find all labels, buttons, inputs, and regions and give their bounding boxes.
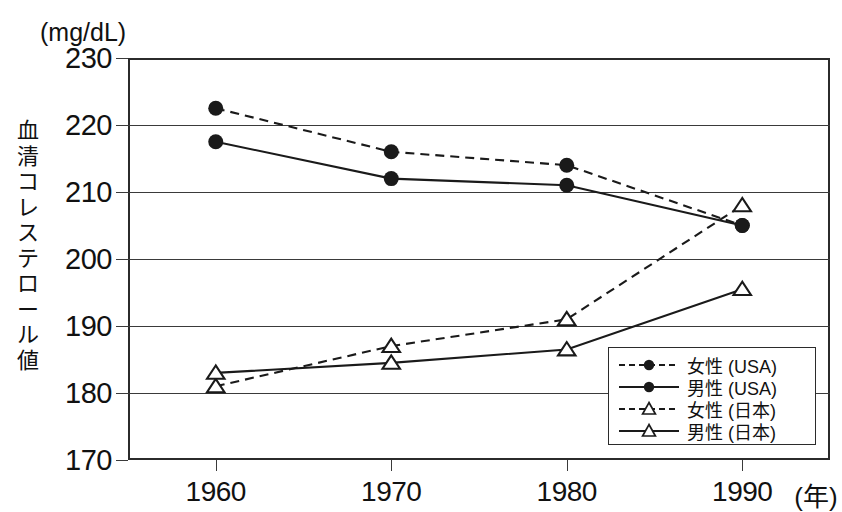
data-point-marker (558, 342, 575, 355)
legend-marker (644, 382, 654, 392)
legend-marker (644, 360, 654, 370)
x-axis-tick (742, 460, 743, 471)
y-axis-tick (116, 192, 128, 193)
y-axis-title-char: 血 (12, 118, 44, 144)
y-axis-tick-label: 200 (65, 243, 112, 276)
y-axis-tick-label: 190 (65, 310, 112, 343)
data-point-marker (558, 312, 575, 325)
y-axis-tick (116, 259, 128, 260)
data-point-marker (384, 144, 399, 159)
x-axis-tick-label: 1970 (361, 476, 421, 508)
y-axis-title-char: テ (12, 246, 44, 272)
series-line (216, 142, 743, 226)
y-axis-tick-label: 220 (65, 109, 112, 142)
data-point-marker (208, 101, 223, 116)
y-axis-tick-label: 170 (65, 444, 112, 477)
y-axis-tick (116, 326, 128, 327)
legend: 女性 (USA)男性 (USA)女性 (日本)男性 (日本) (608, 347, 816, 445)
data-point-marker (559, 158, 574, 173)
series-2 (208, 134, 750, 233)
legend-item-3: 女性 (日本) (609, 398, 815, 420)
y-axis-tick (116, 393, 128, 394)
y-axis-title-char: 清 (12, 144, 44, 170)
data-point-marker (735, 218, 750, 233)
x-axis-tick (567, 460, 568, 471)
y-axis-title-char: ロ (12, 271, 44, 297)
legend-item-1: 女性 (USA) (609, 354, 815, 376)
x-axis: 1960197019801990(年) (128, 460, 830, 510)
series-1 (208, 101, 750, 233)
data-point-marker (559, 178, 574, 193)
data-point-marker (384, 171, 399, 186)
data-point-marker (734, 282, 751, 295)
x-axis-tick-label: 1980 (537, 476, 597, 508)
legend-label: 男性 (日本) (687, 418, 776, 444)
y-axis-title-char: コ (12, 169, 44, 195)
x-axis-tick (391, 460, 392, 471)
data-point-marker (208, 134, 223, 149)
x-unit-label: (年) (794, 476, 837, 512)
y-axis-tick (116, 125, 128, 126)
y-axis-title-char: レ (12, 195, 44, 221)
y-axis-title-char: ー (12, 297, 44, 323)
y-axis-title-char: ル (12, 322, 44, 348)
x-axis-tick-label: 1990 (712, 476, 772, 508)
x-axis-tick-label: 1960 (186, 476, 246, 508)
y-axis-tick-label: 230 (65, 42, 112, 75)
legend-item-2: 男性 (USA) (609, 376, 815, 398)
y-axis-tick (116, 58, 128, 59)
chart-container: (mg/dL) 血清コレステロール値 230220210200190180170… (0, 0, 842, 512)
y-axis-tick-label: 180 (65, 377, 112, 410)
y-axis-tick (116, 460, 128, 461)
y-axis-title-char: 値 (12, 348, 44, 374)
data-point-marker (734, 198, 751, 211)
legend-item-4: 男性 (日本) (609, 420, 815, 442)
y-axis-title-char: ス (12, 220, 44, 246)
y-axis-title: 血清コレステロール値 (12, 118, 44, 373)
y-axis-tick-label: 210 (65, 176, 112, 209)
x-axis-tick (216, 460, 217, 471)
